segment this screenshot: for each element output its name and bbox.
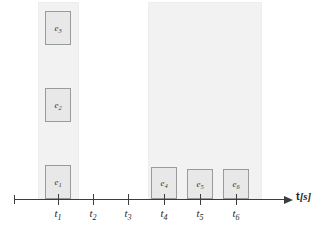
axis-tick-label-t2: t2 [89,208,96,219]
event-label-e1: e1 [54,178,61,187]
axis-tick-t2 [93,194,94,205]
axis-start-cap [14,195,15,204]
event-box-e3: e3 [45,11,71,45]
axis-tick-label-t5: t5 [196,208,203,219]
time-axis-line [14,199,286,200]
event-label-e4: e4 [160,179,167,188]
axis-arrow-icon [284,196,293,204]
axis-tick-t5 [200,194,201,205]
axis-tick-t1 [58,194,59,205]
axis-tick-label-t6: t6 [232,208,239,219]
axis-tick-t3 [128,194,129,205]
event-label-e3: e3 [54,24,61,33]
axis-title-unit: [s] [300,190,312,202]
event-label-e6: e6 [232,180,239,189]
event-box-e2: e2 [45,88,71,122]
axis-tick-label-t3: t3 [124,208,131,219]
event-timeline-figure: e1e2e3e4e5e6 t1t2t3t4t5t6 t[s] [0,0,330,244]
axis-tick-label-t1: t1 [54,208,61,219]
axis-tick-label-t4: t4 [160,208,167,219]
axis-title: t[s] [296,191,311,202]
axis-tick-t6 [236,194,237,205]
event-label-e2: e2 [54,101,61,110]
axis-tick-t4 [164,194,165,205]
event-label-e5: e5 [196,180,203,189]
